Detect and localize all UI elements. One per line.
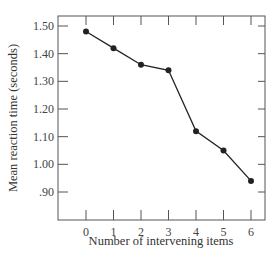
data-point-marker (111, 45, 117, 51)
y-tick-label: 1.30 (33, 74, 54, 88)
data-point-marker (138, 62, 144, 68)
data-point-marker (248, 178, 254, 184)
data-point-marker (193, 128, 199, 134)
series-line (86, 32, 251, 181)
data-point-marker (221, 148, 227, 154)
y-axis-right-ticks (258, 26, 265, 192)
line-chart: 1.501.401.301.201.101.00.90 0123456 Numb… (0, 0, 279, 262)
x-tick-label: 6 (248, 225, 254, 239)
y-axis-title: Mean reaction time (seconds) (6, 44, 20, 192)
data-series (83, 29, 254, 184)
x-axis-top-ticks (86, 16, 251, 25)
plot-frame (58, 16, 265, 220)
y-tick-label: 1.40 (33, 47, 54, 61)
y-tick-label: .90 (39, 185, 54, 199)
y-tick-label: 1.10 (33, 130, 54, 144)
y-tick-label: 1.20 (33, 102, 54, 116)
y-axis: 1.501.401.301.201.101.00.90 (33, 19, 68, 199)
data-point-marker (83, 29, 89, 35)
x-axis-title: Number of intervening items (89, 234, 234, 248)
y-tick-label: 1.50 (33, 19, 54, 33)
y-tick-label: 1.00 (33, 157, 54, 171)
data-point-marker (166, 67, 172, 73)
